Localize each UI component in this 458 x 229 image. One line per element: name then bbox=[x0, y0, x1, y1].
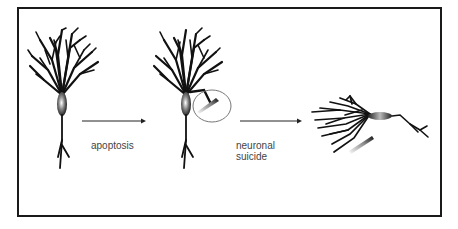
neuron-healthy bbox=[28, 28, 98, 168]
arrow-apoptosis bbox=[82, 119, 146, 124]
neuron-targeted bbox=[154, 28, 222, 168]
label-apoptosis: apoptosis bbox=[91, 140, 134, 151]
diagram-art bbox=[0, 0, 458, 229]
arrow-neuronal-suicide bbox=[240, 119, 302, 124]
injection-highlight-circle bbox=[193, 90, 231, 122]
label-neuronal: neuronal bbox=[236, 140, 296, 151]
label-neuronal-suicide: neuronal suicide bbox=[236, 140, 296, 162]
label-suicide: suicide bbox=[236, 151, 296, 162]
neuron-collapsed bbox=[312, 96, 428, 152]
